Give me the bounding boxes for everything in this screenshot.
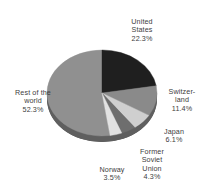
pie-chart: United States 22.3% Switzer- land 11.4% … [0,0,210,191]
slice-label-norway: Norway 3.5% [90,157,134,191]
slice-label-united-states: United States 22.3% [118,9,166,52]
slice-label-switzerland: Switzer- land 11.4% [158,79,206,122]
slice-label-norway-value: 3.5% [90,174,134,183]
pie-slices [47,50,157,136]
slice-united-states [102,50,156,93]
slice-label-former-soviet-union-name: Former Soviet Union [140,147,164,173]
slice-label-rest-of-world-name: Rest of the world [15,88,51,106]
slice-label-switzerland-value: 11.4% [158,105,206,114]
slice-label-former-soviet-union: Former Soviet Union 4.3% [130,139,174,191]
slice-label-rest-of-world-value: 52.3% [4,106,62,115]
slice-label-rest-of-world: Rest of the world 52.3% [4,80,62,123]
slice-label-united-states-name: United States [131,17,152,35]
slice-label-former-soviet-union-value: 4.3% [130,173,174,182]
slice-label-switzerland-name: Switzer- land [169,87,196,105]
slice-label-united-states-value: 22.3% [118,35,166,44]
